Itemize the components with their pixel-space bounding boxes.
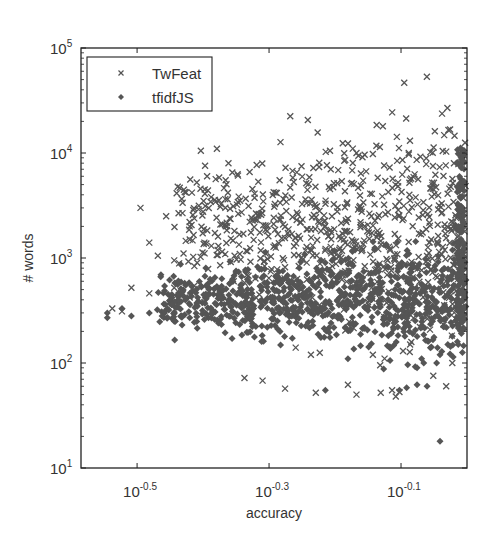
twfeat-point — [390, 176, 396, 182]
tfidfjs-point — [218, 275, 225, 282]
tfidfjs-point — [436, 438, 443, 445]
twfeat-point — [174, 190, 180, 196]
twfeat-point — [287, 184, 293, 190]
tfidfjs-point — [322, 387, 329, 394]
twfeat-point — [445, 191, 451, 197]
twfeat-point — [237, 251, 243, 257]
twfeat-point — [314, 237, 320, 243]
twfeat-point — [385, 209, 391, 215]
tfidfjs-point — [433, 360, 440, 367]
twfeat-point — [214, 146, 220, 152]
tfidfjs-point — [289, 335, 296, 342]
twfeat-point — [312, 226, 318, 232]
twfeat-point — [299, 163, 305, 169]
twfeat-point — [299, 174, 305, 180]
twfeat-point — [426, 205, 432, 211]
tfidfjs-point — [423, 269, 430, 276]
twfeat-point — [277, 139, 283, 145]
twfeat-point — [357, 193, 363, 199]
twfeat-point — [194, 260, 200, 266]
twfeat-point — [370, 151, 376, 157]
twfeat-point — [452, 133, 458, 139]
twfeat-point — [236, 242, 242, 248]
twfeat-point — [271, 215, 277, 221]
twfeat-point — [229, 169, 235, 175]
tfidfjs-point — [286, 319, 293, 326]
twfeat-point — [424, 74, 430, 80]
tfidfjs-point — [333, 331, 340, 338]
tfidfjs-point — [222, 329, 229, 336]
twfeat-point — [222, 251, 228, 257]
twfeat-point — [282, 386, 288, 392]
twfeat-point — [389, 387, 395, 393]
twfeat-point — [185, 259, 191, 265]
twfeat-point — [163, 213, 169, 219]
twfeat-point — [427, 327, 433, 333]
twfeat-point — [328, 166, 334, 172]
tfidfjs-point — [396, 387, 403, 394]
twfeat-point — [171, 224, 177, 230]
twfeat-point — [212, 230, 218, 236]
twfeat-point — [304, 226, 310, 232]
tfidfjs-point — [277, 342, 284, 349]
tfidfjs-point — [371, 304, 378, 311]
twfeat-point — [370, 352, 376, 358]
tfidfjs-point — [414, 381, 421, 388]
twfeat-point — [392, 231, 398, 237]
twfeat-point — [442, 256, 448, 262]
tfidfjs-point — [412, 238, 419, 245]
twfeat-point — [241, 375, 247, 381]
twfeat-point — [258, 239, 264, 245]
twfeat-point — [382, 356, 388, 362]
twfeat-point — [430, 373, 436, 379]
twfeat-point — [444, 105, 450, 111]
twfeat-point — [367, 252, 373, 258]
twfeat-point — [399, 189, 405, 195]
twfeat-point — [432, 128, 438, 134]
twfeat-point — [214, 252, 220, 258]
twfeat-point — [230, 238, 236, 244]
legend-label-tfidfjs: tfidfJS — [152, 89, 194, 106]
twfeat-point — [305, 117, 311, 123]
y-axis-label: # words — [20, 233, 36, 282]
twfeat-point — [437, 164, 443, 170]
tfidfjs-point — [371, 328, 378, 335]
tfidfjs-point — [104, 314, 111, 321]
twfeat-point — [413, 194, 419, 200]
twfeat-point — [255, 179, 261, 185]
twfeat-point — [439, 111, 445, 117]
tfidfjs-point — [251, 334, 258, 341]
tfidfjs-point — [171, 336, 178, 343]
twfeat-point — [443, 383, 449, 389]
twfeat-point — [291, 243, 297, 249]
twfeat-point — [312, 184, 318, 190]
twfeat-point — [109, 306, 115, 312]
tfidfjs-point — [350, 346, 357, 353]
twfeat-point — [415, 201, 421, 207]
twfeat-point — [214, 215, 220, 221]
twfeat-point — [340, 140, 346, 146]
twfeat-point — [407, 138, 413, 144]
twfeat-point — [260, 378, 266, 384]
twfeat-point — [271, 221, 277, 227]
scatter-chart: 10-0.510-0.310-0.1 101102103104105 accur… — [0, 0, 499, 553]
twfeat-point — [342, 188, 348, 194]
twfeat-point — [417, 154, 423, 160]
twfeat-point — [368, 213, 374, 219]
twfeat-point — [308, 352, 314, 358]
twfeat-point — [381, 202, 387, 208]
twfeat-point — [260, 198, 266, 204]
twfeat-point — [440, 173, 446, 179]
data-points — [104, 74, 470, 445]
tfidfjs-point — [229, 335, 236, 342]
twfeat-point — [243, 196, 249, 202]
twfeat-point — [227, 206, 233, 212]
twfeat-point — [382, 178, 388, 184]
twfeat-point — [379, 193, 385, 199]
twfeat-point — [335, 167, 341, 173]
x-axis-label: accuracy — [246, 505, 302, 521]
tfidfjs-point — [146, 309, 153, 316]
tfidfjs-point — [252, 273, 259, 280]
twfeat-point — [443, 162, 449, 168]
twfeat-point — [420, 207, 426, 213]
